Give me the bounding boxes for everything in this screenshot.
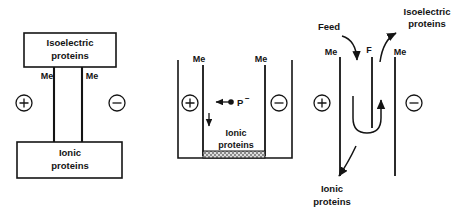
isoelectric-stream-line1: Isoelectric bbox=[404, 6, 451, 17]
figure-canvas: Isoelectric proteins Me Me Ionic protein… bbox=[0, 0, 471, 217]
panel-middle: Me Me P − Ionic proteins bbox=[178, 54, 292, 158]
diagram-svg: Isoelectric proteins Me Me Ionic protein… bbox=[0, 0, 471, 217]
ionic-stream-line1: Ionic bbox=[321, 183, 343, 194]
left-panel-anode bbox=[16, 95, 32, 111]
ionic-box-line2: proteins bbox=[51, 160, 88, 171]
right-panel-membrane-left-label: Me bbox=[325, 47, 338, 57]
protein-anion-charge: − bbox=[245, 94, 250, 103]
feed-stream-label: Feed bbox=[318, 21, 340, 32]
middle-panel-membrane-left-label: Me bbox=[193, 54, 206, 64]
right-panel-cathode bbox=[406, 95, 422, 111]
middle-panel-membrane-right-label: Me bbox=[255, 54, 268, 64]
right-panel-feed-channel-label: F bbox=[366, 45, 372, 55]
ionic-outflow-arrow-icon bbox=[339, 146, 356, 176]
protein-anion-marker: P − bbox=[216, 94, 250, 108]
isoelectric-stream-line2: proteins bbox=[408, 18, 445, 29]
middle-panel-cathode bbox=[271, 95, 287, 111]
isoelectric-proteins-box: Isoelectric proteins bbox=[24, 33, 116, 67]
ionic-box-line1: Ionic bbox=[59, 147, 81, 158]
sediment-band bbox=[203, 151, 265, 158]
protein-anion-label: P bbox=[237, 97, 244, 108]
left-panel-membrane-lines bbox=[54, 67, 82, 142]
left-panel-membrane-left-label: Me bbox=[41, 71, 54, 81]
left-panel-membrane-right-label: Me bbox=[86, 71, 99, 81]
middle-panel-anode bbox=[182, 95, 198, 111]
isoelectric-box-line1: Isoelectric bbox=[47, 37, 94, 48]
right-panel-anode bbox=[314, 95, 330, 111]
u-turn-flow-arrow-icon bbox=[353, 96, 381, 133]
right-panel-membrane-right-label: Me bbox=[394, 47, 407, 57]
ionic-stream-line2: proteins bbox=[313, 196, 350, 207]
sediment-label-line1: Ionic bbox=[225, 128, 246, 138]
panel-left: Isoelectric proteins Me Me Ionic protein… bbox=[16, 33, 125, 178]
ionic-proteins-box: Ionic proteins bbox=[17, 142, 122, 178]
feed-inflow-arrow-icon bbox=[342, 36, 357, 60]
left-panel-cathode bbox=[109, 95, 125, 111]
sediment-label-line2: proteins bbox=[218, 140, 254, 150]
isoelectric-box-line2: proteins bbox=[51, 50, 88, 61]
panel-right: Me F Me Feed Isoelectric proteins Ionic … bbox=[313, 6, 450, 207]
